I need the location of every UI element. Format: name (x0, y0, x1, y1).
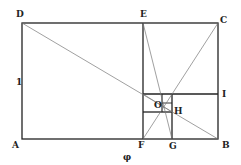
golden-rectangle-figure (0, 0, 241, 165)
height-label: 1 (16, 78, 22, 87)
diagonal-eg (143, 23, 172, 139)
diagonal-db (22, 23, 218, 139)
point-d-label: D (16, 10, 24, 19)
point-h-label: H (174, 107, 183, 116)
point-c-label: C (220, 16, 227, 25)
point-f-label: F (138, 141, 144, 150)
diagonal-cf (143, 23, 218, 139)
point-b-label: B (222, 141, 230, 150)
point-i-label: I (222, 90, 226, 99)
width-label: φ (123, 153, 131, 162)
point-a-label: A (12, 141, 19, 150)
point-o-label: O (154, 101, 162, 110)
point-g-label: G (169, 142, 177, 151)
point-e-label: E (140, 10, 147, 19)
